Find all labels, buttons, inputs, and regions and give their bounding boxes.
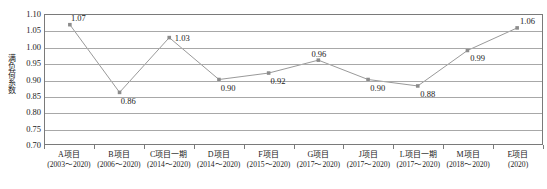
data-point-label: 0.92 (271, 77, 286, 86)
x-axis-tick-mark (543, 145, 544, 149)
data-point-marker (118, 91, 122, 95)
x-axis-category-5: F项目(2015～2020) (247, 150, 290, 170)
x-axis-tick-mark (393, 145, 394, 149)
series-polyline (70, 25, 517, 93)
x-axis-category-6: G项目(2017～2020) (297, 150, 340, 170)
data-point-label: 0.96 (311, 50, 326, 59)
category-year-range: (2015～2020) (247, 160, 290, 170)
category-name: C项目一期 (147, 150, 190, 160)
category-year-range: (2017～2020) (297, 160, 340, 170)
category-year-range: (2014～2020) (197, 160, 240, 170)
category-name: L项目一期 (397, 150, 440, 160)
x-axis-tick-mark (493, 145, 494, 149)
data-point-label: 1.06 (520, 17, 535, 26)
data-point-label: 0.88 (420, 90, 435, 99)
data-point-marker (416, 84, 420, 88)
y-axis-tick-label: 1.00 (1, 43, 41, 52)
category-year-range: (2017～2020) (347, 160, 390, 170)
y-axis-tick-label: 0.90 (1, 75, 41, 84)
data-point-label: 0.86 (121, 97, 136, 106)
gridline (45, 81, 542, 82)
line-chart: 满负荷系数 1.101.051.000.950.900.850.800.750.… (0, 0, 547, 189)
category-year-range: (2020) (508, 160, 529, 170)
data-point-marker (267, 71, 271, 75)
x-axis-tick-mark (443, 145, 444, 149)
y-axis-tick-label: 0.70 (1, 141, 41, 150)
gridline (45, 113, 542, 114)
gridline (45, 97, 542, 98)
category-name: D项目 (197, 150, 240, 160)
x-axis-tick-mark (144, 145, 145, 149)
category-name: B项目 (97, 150, 140, 160)
data-point-marker (68, 23, 72, 27)
category-name: A项目 (47, 150, 90, 160)
y-axis-tick-label: 0.75 (1, 124, 41, 133)
gridline (45, 31, 542, 32)
category-name: G项目 (297, 150, 340, 160)
plot-area: 1.070.861.030.900.920.960.900.880.991.06 (44, 14, 543, 145)
y-axis-tick-labels: 1.101.051.000.950.900.850.800.750.70 (0, 0, 41, 189)
x-axis-category-4: D项目(2014～2020) (197, 150, 240, 170)
x-axis-tick-mark (294, 145, 295, 149)
x-axis-tick-marks (44, 145, 543, 149)
data-point-marker (317, 58, 321, 62)
x-axis-tick-mark (244, 145, 245, 149)
data-point-marker (167, 36, 171, 40)
category-name: J项目 (347, 150, 390, 160)
gridline (45, 48, 542, 49)
category-year-range: (2006～2020) (97, 160, 140, 170)
x-axis-category-1: A项目(2003～2020) (47, 150, 90, 170)
x-axis-category-7: J项目(2017～2020) (347, 150, 390, 170)
x-axis-category-8: L项目一期(2017～2020) (397, 150, 440, 170)
data-point-marker (515, 26, 519, 30)
data-point-label: 0.90 (221, 84, 236, 93)
x-axis-tick-mark (343, 145, 344, 149)
category-name: F项目 (247, 150, 290, 160)
y-axis-tick-label: 0.80 (1, 108, 41, 117)
data-point-label: 0.90 (370, 84, 385, 93)
data-point-label: 1.07 (71, 14, 86, 23)
x-axis-category-10: E项目(2020) (508, 150, 529, 170)
data-point-label: 1.03 (175, 34, 190, 43)
y-axis-tick-label: 0.95 (1, 59, 41, 68)
y-axis-tick-label: 1.05 (1, 26, 41, 35)
category-year-range: (2018～2020) (446, 160, 489, 170)
x-axis-tick-mark (94, 145, 95, 149)
y-axis-tick-label: 0.85 (1, 92, 41, 101)
category-name: E项目 (508, 150, 529, 160)
y-axis-tick-label: 1.10 (1, 10, 41, 19)
x-axis-category-labels: A项目(2003～2020)B项目(2006～2020)C项目一期(2014～2… (44, 150, 543, 184)
category-year-range: (2014～2020) (147, 160, 190, 170)
category-year-range: (2003～2020) (47, 160, 90, 170)
x-axis-category-3: C项目一期(2014～2020) (147, 150, 190, 170)
series-line (45, 15, 542, 144)
gridline (45, 64, 542, 65)
x-axis-category-9: M项目(2018～2020) (446, 150, 489, 170)
category-name: M项目 (446, 150, 489, 160)
gridline (45, 130, 542, 131)
x-axis-tick-mark (194, 145, 195, 149)
x-axis-category-2: B项目(2006～2020) (97, 150, 140, 170)
data-point-marker (466, 49, 470, 53)
data-point-label: 0.99 (470, 54, 485, 63)
category-year-range: (2017～2020) (397, 160, 440, 170)
x-axis-tick-mark (44, 145, 45, 149)
